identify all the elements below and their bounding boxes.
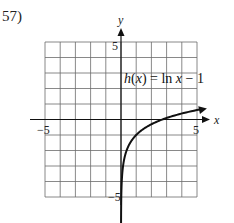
function-label: h(x) = ln x − 1	[124, 71, 204, 87]
y-axis-label: y	[117, 13, 124, 27]
tick-label-y-max: 5	[112, 39, 118, 53]
tick-label-x-min: −5	[37, 123, 50, 137]
y-axis-arrow-icon	[118, 28, 125, 36]
curve-right-arrow-icon	[198, 106, 207, 114]
tick-label-x-max: 5	[193, 123, 199, 137]
tick-label-y-min: −5	[108, 190, 121, 204]
x-axis-arrow-icon	[202, 116, 210, 123]
x-axis-label: x	[213, 113, 220, 127]
graph: xy−555−5h(x) = ln x − 1	[0, 0, 234, 223]
